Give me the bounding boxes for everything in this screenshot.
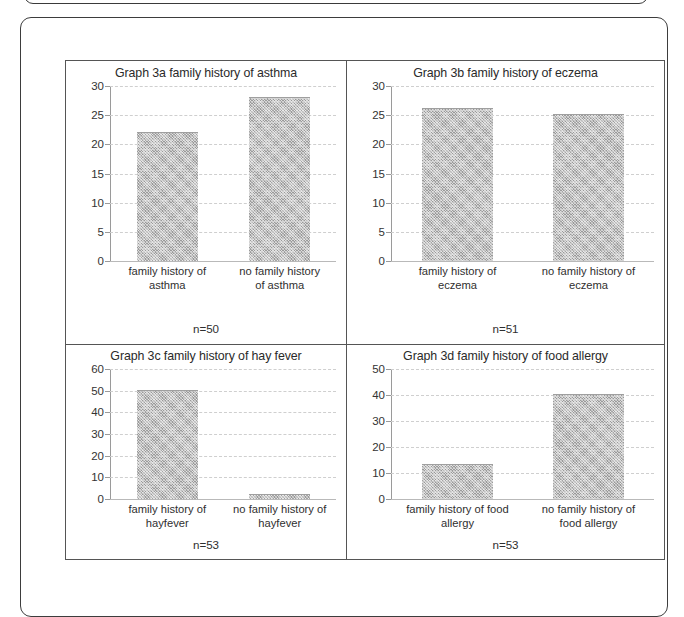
bar-slot bbox=[523, 369, 654, 499]
bar-slot bbox=[523, 86, 654, 261]
axis-baseline bbox=[391, 499, 654, 500]
x-axis-labels-3d: family history of foodallergy no family … bbox=[392, 502, 654, 531]
x-label-1: family history of foodallergy bbox=[392, 502, 523, 531]
chart-title-3b: Graph 3b family history of eczema bbox=[347, 61, 664, 80]
y-tick-label: 30 bbox=[91, 80, 104, 92]
y-tickmark bbox=[386, 232, 391, 233]
y-tick-label: 20 bbox=[91, 138, 104, 150]
x-label-2: no family history offood allergy bbox=[523, 502, 654, 531]
y-tickmark bbox=[386, 115, 391, 116]
bar-slot bbox=[224, 369, 337, 499]
bar-3b-1 bbox=[422, 108, 493, 261]
bar-slot bbox=[111, 369, 224, 499]
y-tickmark bbox=[105, 203, 110, 204]
y-tick-label: 5 bbox=[98, 226, 104, 238]
x-label-1: family history ofhayfever bbox=[111, 502, 224, 531]
sample-size-3a: n=50 bbox=[66, 322, 346, 335]
x-label-1: family history ofasthma bbox=[111, 264, 224, 293]
y-tick-label: 25 bbox=[372, 109, 385, 121]
cropped-box-above bbox=[24, 0, 648, 4]
y-tickmark bbox=[105, 412, 110, 413]
y-tickmark bbox=[386, 261, 391, 262]
y-tick-label: 0 bbox=[379, 493, 385, 505]
axis-baseline bbox=[110, 499, 336, 500]
bar-3c-1 bbox=[137, 390, 198, 499]
sample-size-3b: n=51 bbox=[347, 322, 664, 335]
plot-area-3d: 50 40 30 20 10 0 bbox=[357, 369, 654, 499]
y-tickmark bbox=[105, 391, 110, 392]
y-tick-label: 0 bbox=[98, 493, 104, 505]
y-tick-label: 50 bbox=[91, 385, 104, 397]
y-tickmark bbox=[386, 144, 391, 145]
x-label-2: no family history ofhayfever bbox=[224, 502, 337, 531]
y-tick-label: 5 bbox=[379, 226, 385, 238]
y-tickmark bbox=[105, 86, 110, 87]
x-axis-labels-3c: family history ofhayfever no family hist… bbox=[111, 502, 336, 531]
x-label-1: family history ofeczema bbox=[392, 264, 523, 293]
figure-cell-graph-3a: Graph 3a family history of asthma 30 25 … bbox=[66, 61, 347, 345]
bar-series-3c bbox=[111, 369, 336, 499]
figure-grid: Graph 3a family history of asthma 30 25 … bbox=[65, 60, 665, 560]
y-tick-label: 10 bbox=[372, 467, 385, 479]
y-tick-label: 40 bbox=[91, 406, 104, 418]
bar-slot bbox=[224, 86, 337, 261]
y-tick-label: 10 bbox=[91, 471, 104, 483]
y-tick-label: 10 bbox=[372, 197, 385, 209]
chart-title-3c: Graph 3c family history of hay fever bbox=[66, 345, 346, 363]
y-axis-3d: 50 40 30 20 10 0 bbox=[357, 369, 391, 499]
y-tick-label: 40 bbox=[372, 389, 385, 401]
chart-title-3a: Graph 3a family history of asthma bbox=[66, 61, 346, 80]
y-tickmark bbox=[105, 261, 110, 262]
bar-3a-1 bbox=[137, 132, 198, 261]
bar-series-3a bbox=[111, 86, 336, 261]
y-tick-label: 60 bbox=[91, 363, 104, 375]
y-tick-label: 15 bbox=[372, 168, 385, 180]
x-label-2: no family history ofeczema bbox=[523, 264, 654, 293]
y-tick-label: 50 bbox=[372, 363, 385, 375]
y-tick-label: 0 bbox=[379, 255, 385, 267]
x-label-2: no family historyof asthma bbox=[224, 264, 337, 293]
bar-slot bbox=[111, 86, 224, 261]
y-tickmark bbox=[105, 174, 110, 175]
figure-cell-graph-3d: Graph 3d family history of food allergy … bbox=[347, 345, 664, 559]
y-tick-label: 20 bbox=[372, 441, 385, 453]
y-tick-label: 0 bbox=[98, 255, 104, 267]
y-tickmark bbox=[386, 203, 391, 204]
y-tickmark bbox=[105, 232, 110, 233]
y-tickmark bbox=[105, 456, 110, 457]
y-tick-label: 30 bbox=[372, 80, 385, 92]
y-tick-label: 20 bbox=[91, 450, 104, 462]
y-tickmark bbox=[386, 369, 391, 370]
bar-3d-2 bbox=[553, 394, 624, 499]
y-tickmark bbox=[386, 174, 391, 175]
y-tickmark bbox=[105, 477, 110, 478]
axis-baseline bbox=[110, 261, 336, 262]
y-tickmark bbox=[105, 369, 110, 370]
bar-3c-2 bbox=[249, 494, 310, 499]
y-tickmark bbox=[105, 499, 110, 500]
bar-series-3b bbox=[392, 86, 654, 261]
sample-size-3c: n=53 bbox=[66, 538, 346, 551]
bar-3a-2 bbox=[249, 97, 310, 261]
x-axis-labels-3b: family history ofeczema no family histor… bbox=[392, 264, 654, 293]
y-tickmark bbox=[386, 473, 391, 474]
bar-3b-2 bbox=[553, 114, 624, 261]
axis-baseline bbox=[391, 261, 654, 262]
chart-title-3d: Graph 3d family history of food allergy bbox=[347, 345, 664, 363]
bar-series-3d bbox=[392, 369, 654, 499]
y-tickmark bbox=[105, 115, 110, 116]
figure-cell-graph-3b: Graph 3b family history of eczema 30 25 … bbox=[347, 61, 664, 345]
x-axis-labels-3a: family history ofasthma no family histor… bbox=[111, 264, 336, 293]
y-tick-label: 10 bbox=[91, 197, 104, 209]
plot-area-3c: 60 50 40 30 20 10 0 bbox=[76, 369, 336, 499]
y-tickmark bbox=[386, 499, 391, 500]
figure-cell-graph-3c: Graph 3c family history of hay fever 60 … bbox=[66, 345, 347, 559]
y-tick-label: 15 bbox=[91, 168, 104, 180]
page-border-frame: Graph 3a family history of asthma 30 25 … bbox=[20, 17, 668, 617]
y-tick-label: 30 bbox=[372, 415, 385, 427]
plot-area-3b: 30 25 20 15 10 5 0 bbox=[357, 86, 654, 261]
y-tick-label: 25 bbox=[91, 109, 104, 121]
y-tickmark bbox=[386, 447, 391, 448]
y-tickmark bbox=[386, 395, 391, 396]
y-tickmark bbox=[386, 421, 391, 422]
